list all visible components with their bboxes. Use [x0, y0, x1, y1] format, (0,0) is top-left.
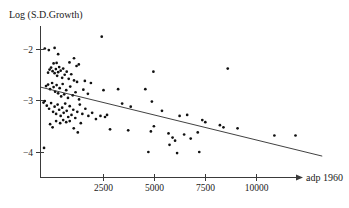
data-point [45, 104, 48, 107]
data-point [219, 124, 222, 127]
data-point [183, 133, 186, 136]
data-point [67, 116, 70, 119]
data-point [72, 108, 75, 111]
data-point [65, 121, 68, 124]
data-point [58, 66, 61, 69]
x-axis-label: adp 1960 [306, 172, 343, 183]
data-point [56, 103, 59, 106]
data-point [174, 139, 177, 142]
data-point [76, 110, 79, 113]
data-point [55, 113, 58, 116]
data-point [57, 92, 60, 95]
data-point [189, 137, 192, 140]
data-point [121, 102, 124, 105]
data-point [100, 35, 103, 38]
data-point [57, 71, 60, 74]
data-point [49, 123, 52, 126]
data-point [48, 107, 51, 110]
data-point [53, 105, 56, 108]
data-point [56, 74, 59, 77]
data-point [64, 102, 67, 105]
data-point [109, 128, 112, 131]
data-point [84, 107, 87, 110]
regression-line [41, 87, 323, 156]
data-point [76, 131, 79, 134]
data-point [55, 120, 58, 123]
data-point [82, 88, 85, 91]
scatter-plot-figure: −2 −3 −4 2500 5000 7500 10000 Log (S.D.G… [0, 0, 349, 208]
data-point [74, 117, 77, 120]
data-point [52, 110, 55, 113]
data-point [68, 105, 71, 108]
data-point [75, 65, 78, 68]
data-point [73, 57, 76, 60]
data-point [87, 92, 90, 95]
data-point [61, 76, 64, 79]
data-point [68, 120, 71, 123]
data-point [52, 86, 55, 89]
data-point [84, 80, 87, 83]
x-axis-arrow-icon [296, 175, 303, 181]
data-point [171, 136, 174, 139]
data-point [127, 129, 130, 132]
data-point [68, 61, 71, 64]
data-point [53, 47, 56, 50]
data-point [151, 100, 154, 103]
data-point [117, 88, 120, 91]
data-point [70, 73, 73, 76]
data-point [59, 115, 62, 118]
data-point [58, 87, 61, 90]
data-point [65, 109, 68, 112]
data-point [152, 70, 155, 73]
data-point [236, 127, 239, 130]
data-point [95, 118, 98, 121]
data-point [167, 132, 170, 135]
x-tick-label-1: 5000 [145, 183, 164, 193]
data-point [226, 67, 229, 70]
trend-line-layer [41, 87, 323, 156]
y-tick-label-1: −3 [23, 96, 33, 106]
data-point [90, 82, 93, 85]
data-point [67, 78, 70, 81]
y-tick-label-0: −2 [23, 45, 33, 55]
data-point [43, 47, 46, 50]
data-point [76, 81, 79, 84]
data-point [59, 69, 62, 72]
data-point [186, 114, 189, 117]
data-point [50, 102, 53, 105]
data-point [52, 62, 55, 65]
data-point [61, 83, 64, 86]
data-point [106, 114, 109, 117]
data-point [144, 88, 147, 91]
data-point [104, 116, 107, 119]
data-point [61, 106, 64, 109]
data-point [201, 119, 204, 122]
data-point [60, 95, 63, 98]
x-tick-label-0: 2500 [94, 183, 113, 193]
data-point [198, 151, 201, 154]
y-tick-label-2: −4 [23, 148, 33, 158]
x-tick-label-3: 10000 [245, 183, 269, 193]
data-point [58, 108, 61, 111]
data-point [63, 73, 66, 76]
data-point [70, 114, 73, 117]
data-point [178, 115, 181, 118]
data-point [65, 70, 68, 73]
data-point [55, 84, 58, 87]
data-point [99, 115, 102, 118]
data-point [67, 97, 70, 100]
data-point [51, 70, 54, 73]
data-point [78, 98, 81, 101]
data-point [73, 79, 76, 82]
data-point [43, 100, 46, 103]
data-point [51, 82, 54, 85]
data-point [72, 127, 75, 130]
data-point [168, 143, 171, 146]
data-point [273, 134, 276, 137]
data-point [153, 125, 156, 128]
data-point [50, 66, 53, 69]
data-point [57, 53, 60, 56]
data-point [176, 152, 179, 155]
data-point [53, 72, 56, 75]
data-point [47, 49, 50, 52]
